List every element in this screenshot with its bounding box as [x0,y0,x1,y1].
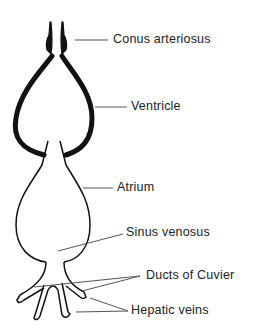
conus-arteriosus-shape [46,22,66,54]
label-ducts-of-cuvier: Ducts of Cuvier [146,268,234,282]
heart-diagram [0,0,257,333]
vein-branches [17,262,86,320]
label-hepatic-veins: Hepatic veins [131,303,209,317]
label-ventricle: Ventricle [131,99,181,113]
label-atrium: Atrium [117,180,154,194]
ventricle-shape [15,56,52,155]
label-sinus-venosus: Sinus venosus [126,225,210,239]
label-conus-arteriosus: Conus arteriosus [113,32,211,46]
